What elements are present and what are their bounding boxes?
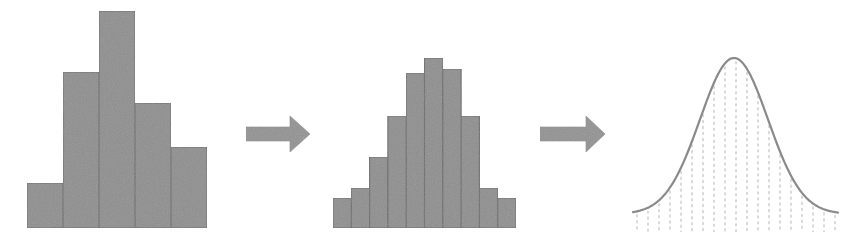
histogram-bar	[333, 198, 351, 228]
fine-histogram	[333, 58, 516, 228]
histogram-bar	[406, 73, 424, 228]
histogram-bar	[425, 58, 443, 228]
histogram-bar	[498, 198, 516, 228]
histogram-bar	[461, 116, 479, 228]
histogram-bar	[171, 147, 207, 228]
histogram-bar	[99, 11, 135, 228]
coarse-histogram	[27, 11, 207, 228]
histogram-bar	[351, 188, 369, 228]
histogram-bar	[27, 183, 63, 228]
arrow-right-icon	[246, 116, 310, 152]
histogram-bar	[63, 72, 99, 228]
diagram-svg	[0, 0, 868, 239]
histogram-bar	[135, 103, 171, 228]
diagram-canvas	[0, 0, 868, 239]
histogram-bar	[388, 116, 406, 228]
histogram-bar	[443, 69, 461, 228]
normal-distribution-curve	[633, 58, 838, 232]
histogram-bar	[479, 188, 497, 228]
arrow-right-icon	[540, 116, 605, 152]
histogram-bar	[370, 157, 388, 228]
